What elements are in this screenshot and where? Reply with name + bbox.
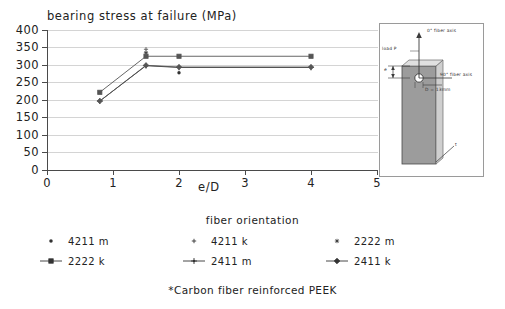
legend-entries: 4211 m4211 k2222 m2222 k2411 m2411 k <box>0 235 505 267</box>
legend-row: 2222 k2411 m2411 k <box>0 255 505 267</box>
inset-label-fiber-axis-90: 90° fiber axis <box>440 72 472 77</box>
chart-legend: fiber orientation 4211 m4211 k2222 m2222… <box>0 214 505 275</box>
diamond-marker-icon <box>324 255 350 267</box>
y-axis-label: 50 <box>24 145 39 159</box>
asterisk-marker-icon <box>324 235 350 247</box>
chart-title: bearing stress at failure (MPa) <box>47 9 237 23</box>
inset-label-fiber-axis-0: 0° fiber axis <box>427 28 456 33</box>
legend-item-label: 4211 k <box>211 236 248 247</box>
inset-label-thickness: t <box>455 142 457 147</box>
cross-marker-icon <box>181 255 207 267</box>
x-axis-label: 1 <box>109 176 117 190</box>
y-axis-label: 0 <box>31 163 39 177</box>
inset-label-load: load P <box>382 46 397 51</box>
inset-label-diameter: D = 13mm <box>425 87 451 92</box>
legend-title: fiber orientation <box>0 214 505 226</box>
chart-footnote: *Carbon fiber reinforced PEEK <box>0 284 505 296</box>
legend-item-label: 4211 m <box>68 236 109 247</box>
y-axis-label: 100 <box>16 128 39 142</box>
x-axis-caption: e/D <box>198 180 220 194</box>
dot-marker-icon <box>38 235 64 247</box>
specimen-inset-diagram: 0° fiber axis load P 90° fiber axis D = … <box>379 23 484 177</box>
x-axis-label: 5 <box>373 176 381 190</box>
legend-item-label: 2222 k <box>68 256 105 267</box>
y-axis-label: 350 <box>16 40 39 54</box>
y-axis-label: 150 <box>16 110 39 124</box>
x-axis-label: 2 <box>175 176 183 190</box>
legend-row: 4211 m4211 k2222 m <box>0 235 505 247</box>
chart-figure: bearing stress at failure (MPa) 400 350 … <box>0 0 505 309</box>
data-series-layer <box>47 30 378 171</box>
y-axis-label: 200 <box>16 93 39 107</box>
legend-item-2222-k[interactable]: 2222 k <box>38 255 181 267</box>
legend-item-label: 2411 k <box>354 256 391 267</box>
inset-label-edge-distance: e <box>384 67 387 72</box>
legend-item-2411-k[interactable]: 2411 k <box>324 255 467 267</box>
y-axis-label: 400 <box>16 23 39 37</box>
legend-item-label: 2222 m <box>354 236 395 247</box>
legend-item-label: 2411 m <box>211 256 252 267</box>
x-axis-label: 0 <box>43 176 51 190</box>
plus-marker-icon <box>181 235 207 247</box>
legend-item-2222-m[interactable]: 2222 m <box>324 235 467 247</box>
legend-item-2411-m[interactable]: 2411 m <box>181 255 324 267</box>
legend-item-4211-k[interactable]: 4211 k <box>181 235 324 247</box>
y-axis-label: 300 <box>16 58 39 72</box>
legend-item-4211-m[interactable]: 4211 m <box>38 235 181 247</box>
x-axis-label: 4 <box>307 176 315 190</box>
y-axis-label: 250 <box>16 75 39 89</box>
x-axis-label: 3 <box>241 176 249 190</box>
plot-area: 400 350 300 250 200 150 100 50 0 0 1 2 3… <box>47 30 377 170</box>
square-marker-icon <box>38 255 64 267</box>
